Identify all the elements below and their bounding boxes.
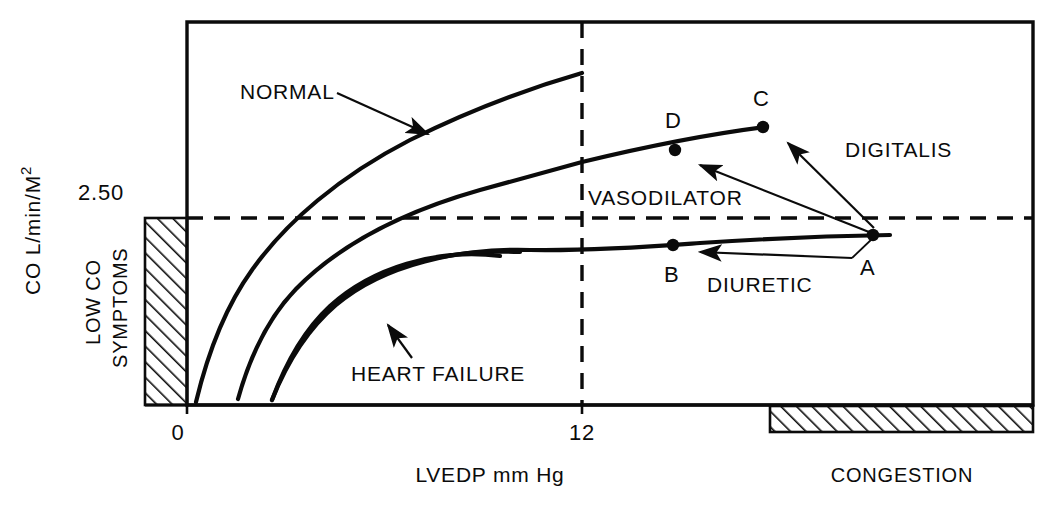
x-axis-label: LVEDP mm Hg — [415, 463, 564, 486]
point-label-C: C — [753, 86, 770, 111]
figure-root: CO L/min/M2 2.50 LOW CO SYMPTOMS 0 12 LV… — [0, 0, 1053, 510]
curve-label-heart-failure: HEART FAILURE — [351, 362, 525, 385]
curve-label-normal-text: NORMAL — [240, 80, 335, 103]
annotation-label-digitalis: DIGITALIS — [845, 138, 952, 161]
low-co-label-line2: SYMPTOMS — [109, 248, 131, 369]
y-axis-label-exponent: 2 — [17, 166, 34, 175]
y-tick-label-2-50: 2.50 — [78, 180, 124, 205]
point-label-C-text: C — [753, 86, 770, 111]
low-co-zone-label: LOW CO SYMPTOMS — [82, 248, 131, 369]
curve-label-heart-failure-text: HEART FAILURE — [351, 362, 525, 385]
point-label-D: D — [665, 108, 682, 133]
arrow-normal — [337, 93, 428, 134]
y-axis-label-text: CO L/min/M — [21, 175, 44, 295]
x-tick-label-12: 12 — [569, 420, 595, 445]
curve-label-vasodilator-text: VASODILATOR — [588, 186, 743, 209]
point-label-B-text: B — [664, 262, 679, 287]
x-tick-label-0-text: 0 — [171, 420, 184, 445]
data-point-B — [667, 239, 679, 251]
curve-label-normal: NORMAL — [240, 80, 335, 103]
point-label-A-text: A — [860, 255, 875, 280]
y-axis-label: CO L/min/M2 — [17, 166, 44, 295]
arrow-a-to-b — [700, 252, 852, 258]
data-point-D — [669, 144, 681, 156]
data-point-C — [757, 121, 769, 133]
frank-starling-chart: CO L/min/M2 2.50 LOW CO SYMPTOMS 0 12 LV… — [0, 0, 1053, 510]
y-tick-label-text: 2.50 — [78, 180, 124, 205]
low-co-zone — [145, 218, 187, 405]
annotation-label-diuretic: DIURETIC — [707, 273, 813, 296]
annotation-label-diuretic-text: DIURETIC — [707, 273, 813, 296]
arrow-heart-failure — [388, 325, 412, 358]
congestion-label-text: CONGESTION — [831, 464, 973, 486]
point-label-A: A — [860, 255, 875, 280]
congestion-zone — [770, 406, 1033, 432]
curve-label-vasodilator: VASODILATOR — [588, 186, 743, 209]
annotation-label-digitalis-text: DIGITALIS — [845, 138, 952, 161]
x-axis-label-text: LVEDP mm Hg — [415, 463, 564, 486]
x-tick-label-0: 0 — [171, 420, 184, 445]
point-label-D-text: D — [665, 108, 682, 133]
low-co-label-line1: LOW CO — [82, 259, 104, 345]
point-label-B: B — [664, 262, 679, 287]
congestion-zone-label: CONGESTION — [831, 464, 973, 486]
x-tick-label-12-text: 12 — [569, 420, 595, 445]
data-point-A — [867, 229, 879, 241]
svg-text:CO L/min/M2: CO L/min/M2 — [17, 166, 44, 295]
curve-vasodilator — [238, 127, 765, 399]
